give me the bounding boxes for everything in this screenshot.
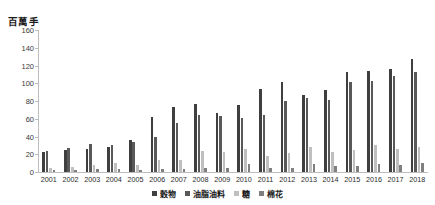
bar-groups	[38, 30, 428, 172]
legend-item[interactable]: 穀物	[152, 188, 176, 199]
y-tick-label: 80	[6, 97, 34, 106]
bar	[204, 168, 207, 172]
bar	[219, 116, 222, 172]
bar-group	[190, 30, 212, 172]
y-tick-label: 160	[6, 26, 34, 35]
bar	[86, 149, 89, 172]
bar-group	[125, 30, 147, 172]
bar	[393, 76, 396, 172]
bar-group	[406, 30, 428, 172]
x-tick-label: 2017	[385, 174, 407, 186]
bar	[237, 105, 240, 172]
bar	[313, 164, 316, 172]
bar-chart: 百萬手 020406080100120140160 20012002200320…	[0, 0, 435, 205]
legend-swatch-icon	[152, 191, 157, 196]
bar	[93, 165, 96, 172]
bar	[136, 165, 139, 172]
legend-item[interactable]: 糖	[234, 188, 250, 199]
y-tick-label: 100	[6, 79, 34, 88]
bar	[399, 165, 402, 172]
bar	[64, 150, 67, 172]
bar	[46, 151, 49, 172]
x-tick-label: 2006	[146, 174, 168, 186]
bar	[346, 72, 349, 172]
bar	[331, 152, 334, 172]
bar	[266, 156, 269, 172]
x-tick-label: 2005	[125, 174, 147, 186]
bar	[89, 144, 92, 172]
bar	[67, 148, 70, 172]
bar	[158, 160, 161, 172]
bar	[183, 169, 186, 172]
legend-item[interactable]: 油脂油料	[185, 188, 225, 199]
bar	[374, 145, 377, 172]
bar-group	[255, 30, 277, 172]
bar-group	[298, 30, 320, 172]
bar	[349, 82, 352, 172]
y-tick-label: 40	[6, 132, 34, 141]
bar-group	[341, 30, 363, 172]
legend-item[interactable]: 棉花	[259, 188, 283, 199]
bar	[244, 149, 247, 172]
bar	[248, 164, 251, 172]
bar	[353, 150, 356, 172]
bar	[49, 168, 52, 172]
bar	[263, 115, 266, 172]
y-tick-mark	[35, 172, 38, 173]
bar	[129, 140, 132, 172]
bar	[421, 163, 424, 172]
x-tick-label: 2010	[233, 174, 255, 186]
x-tick-label: 2011	[255, 174, 277, 186]
legend-swatch-icon	[185, 191, 190, 196]
bar	[42, 152, 45, 172]
x-tick-label: 2016	[363, 174, 385, 186]
bar-group	[60, 30, 82, 172]
bar	[132, 142, 135, 172]
bar	[288, 153, 291, 172]
plot-area: 020406080100120140160	[38, 30, 428, 172]
bar	[309, 147, 312, 172]
bar	[96, 169, 99, 172]
bar-group	[146, 30, 168, 172]
bar	[74, 170, 77, 172]
x-axis-line	[38, 172, 428, 173]
bar	[176, 123, 179, 172]
bar-group	[103, 30, 125, 172]
legend-label: 穀物	[160, 188, 176, 199]
y-tick-label: 120	[6, 61, 34, 70]
bar	[201, 151, 204, 172]
x-tick-label: 2018	[406, 174, 428, 186]
bar	[281, 82, 284, 172]
y-tick-label: 140	[6, 43, 34, 52]
legend-label: 油脂油料	[193, 188, 225, 199]
y-tick-label: 0	[6, 168, 34, 177]
legend-swatch-icon	[234, 191, 239, 196]
bar	[334, 166, 337, 172]
bar-group	[81, 30, 103, 172]
bar	[71, 167, 74, 172]
bar	[302, 95, 305, 172]
x-axis-labels: 2001200220032004200520062007200820092010…	[38, 174, 428, 186]
bar	[324, 90, 327, 172]
bar	[371, 81, 374, 172]
legend-swatch-icon	[259, 191, 264, 196]
legend-label: 糖	[242, 188, 250, 199]
x-tick-label: 2009	[211, 174, 233, 186]
bar	[139, 170, 142, 172]
bar-group	[233, 30, 255, 172]
bar	[226, 168, 229, 172]
bar	[118, 169, 121, 172]
x-tick-label: 2002	[60, 174, 82, 186]
x-tick-label: 2008	[190, 174, 212, 186]
bar	[356, 166, 359, 172]
y-tick-label: 20	[6, 150, 34, 159]
bar	[259, 89, 262, 172]
bar	[396, 149, 399, 172]
x-tick-label: 2004	[103, 174, 125, 186]
bar	[418, 147, 421, 172]
bar	[269, 168, 272, 172]
bar	[411, 59, 414, 172]
bar-group	[38, 30, 60, 172]
x-tick-label: 2014	[320, 174, 342, 186]
bar-group	[320, 30, 342, 172]
